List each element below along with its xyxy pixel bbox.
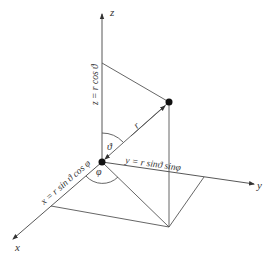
radius-label: r	[131, 120, 141, 131]
phi-label: φ	[96, 166, 102, 177]
theta-arc	[102, 133, 123, 142]
z-axis-label: z	[109, 6, 115, 18]
phi-arc	[86, 176, 118, 183]
x-axis	[13, 162, 102, 239]
position-point	[166, 99, 173, 106]
y-axis-label: y	[256, 179, 262, 191]
y-parallel-line	[169, 177, 204, 227]
x-parallel-line	[51, 206, 169, 227]
x-axis-label: x	[14, 241, 20, 253]
origin-point	[99, 159, 106, 166]
z-equation-label: z = r cos ϑ	[90, 63, 100, 106]
z-projection-line	[102, 63, 169, 102]
radius-vector-head	[131, 106, 165, 136]
x-equation-label: x = r sin ϑ cos φ	[38, 158, 92, 207]
spherical-coordinates-diagram: z y x ϑ φ r z = r cos ϑ y = r sinϑ sinφ …	[0, 0, 271, 258]
y-equation-label: y = r sinϑ sinφ	[124, 155, 182, 173]
theta-label: ϑ	[107, 141, 113, 152]
